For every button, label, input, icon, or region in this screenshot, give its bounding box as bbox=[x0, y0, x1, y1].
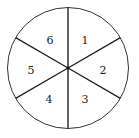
center-pivot bbox=[67, 67, 70, 70]
sector-label-4: 4 bbox=[46, 93, 53, 106]
sector-label-2: 2 bbox=[100, 64, 107, 77]
sector-label-5: 5 bbox=[28, 64, 35, 77]
sector-label-6: 6 bbox=[47, 34, 54, 47]
sector-label-3: 3 bbox=[82, 93, 89, 106]
spinner-diagram: 1 2 3 4 5 6 bbox=[0, 0, 139, 138]
sector-label-1: 1 bbox=[82, 34, 89, 47]
